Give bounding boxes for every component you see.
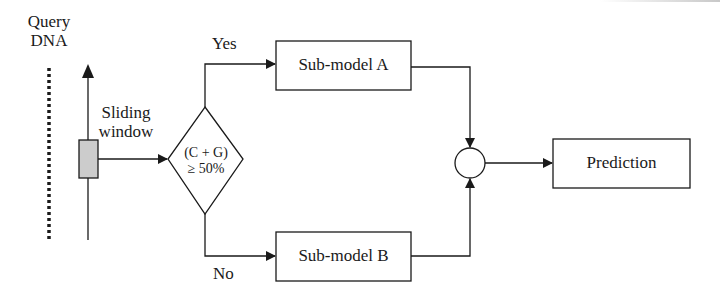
connector-yes-branch [205,64,275,107]
sliding-window-label-line2: window [96,122,156,141]
yes-branch-label: Yes [212,34,237,53]
query-dna-label: Query DNA [20,12,78,50]
combiner-node [455,148,485,178]
sliding-window-label: Sliding window [96,103,156,141]
decision-condition-label: (C + G) ≥ 50% [170,145,242,177]
connector-no-branch [205,214,275,256]
query-dna-label-line2: DNA [20,31,78,50]
no-branch-label: No [213,264,234,283]
submodel-a-label: Sub-model A [276,55,411,74]
query-dna-label-line1: Query [20,12,78,31]
prediction-label: Prediction [553,153,690,172]
decision-condition-line1: (C + G) [170,145,242,161]
connector-b-to-combiner [411,179,470,256]
decision-condition-line2: ≥ 50% [170,161,242,177]
slide-direction-arrowhead [82,64,94,78]
submodel-b-label: Sub-model B [276,246,411,265]
sliding-window-box [79,140,98,178]
sliding-window-label-line1: Sliding [96,103,156,122]
connector-a-to-combiner [411,67,470,147]
